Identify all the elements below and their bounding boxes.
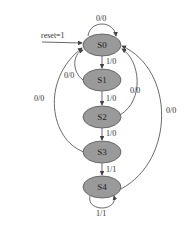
reset-label: reset=1 bbox=[41, 31, 65, 40]
edge-label-s0-s1: 1/0 bbox=[106, 57, 116, 66]
edge-label-s1-s2: 1/0 bbox=[106, 94, 116, 103]
state-label-s2: S2 bbox=[97, 112, 107, 122]
state-s0: S0 bbox=[83, 34, 121, 56]
state-s4: S4 bbox=[83, 176, 121, 198]
state-s3: S3 bbox=[83, 141, 121, 163]
state-label-s4: S4 bbox=[97, 182, 107, 192]
edge-label-s2-s3: 1/0 bbox=[106, 129, 116, 138]
edge-s1-s0 bbox=[75, 50, 83, 80]
edge-label-s3-s4: 1/1 bbox=[106, 165, 116, 174]
edge-label-s2-s0: 0/0 bbox=[130, 86, 140, 95]
state-label-s0: S0 bbox=[97, 40, 107, 50]
state-diagram: reset=1 0/0 1/0 0/0 1/0 0/0 1/0 0/0 1/1 … bbox=[0, 0, 187, 228]
edge-s4-s0 bbox=[121, 46, 162, 189]
state-label-s1: S1 bbox=[97, 75, 107, 85]
edge-s3-s0 bbox=[54, 48, 84, 152]
edge-label-s0-s0: 0/0 bbox=[96, 14, 106, 23]
state-s2: S2 bbox=[83, 106, 121, 128]
reset-arrow bbox=[42, 42, 82, 43]
edge-label-s4-s0: 0/0 bbox=[166, 106, 176, 115]
edge-label-s1-s0: 0/0 bbox=[64, 71, 74, 80]
edge-label-s4-s4: 1/1 bbox=[96, 209, 106, 218]
state-s1: S1 bbox=[83, 69, 121, 91]
edge-s2-s0 bbox=[120, 49, 137, 115]
state-label-s3: S3 bbox=[97, 147, 107, 157]
edge-label-s3-s0: 0/0 bbox=[34, 94, 44, 103]
